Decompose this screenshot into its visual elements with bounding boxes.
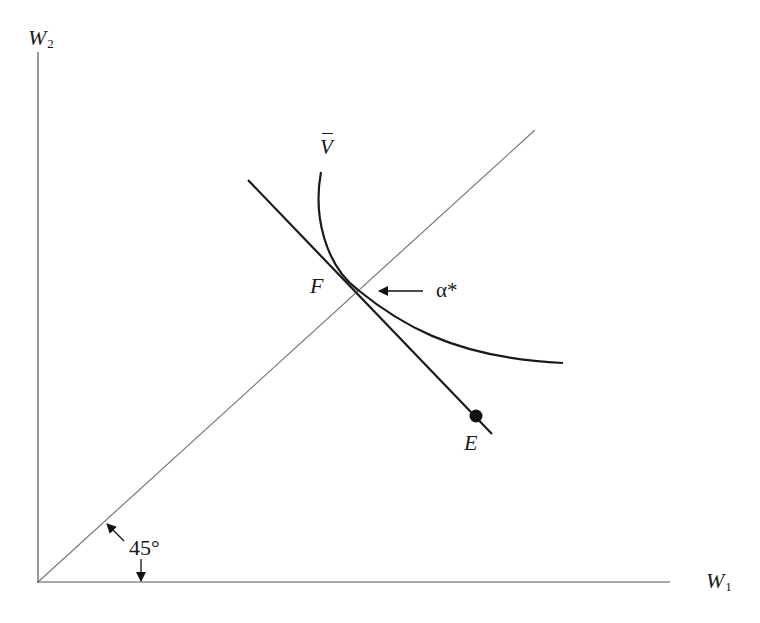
tangent-point-label: F <box>310 275 323 297</box>
indifference-curve <box>319 172 563 363</box>
budget-line <box>248 180 492 434</box>
x-axis-label: W1 <box>706 570 732 592</box>
y-axis-label-base: W <box>28 25 46 50</box>
endowment-point <box>470 410 483 423</box>
angle-arrow-upper <box>107 524 124 541</box>
endowment-label: E <box>464 432 477 454</box>
slope-label: α* <box>436 280 458 301</box>
angle-label: 45° <box>129 537 160 559</box>
x-axis-label-base: W <box>706 568 724 593</box>
curve-label: V <box>320 137 333 158</box>
y-axis-label: W2 <box>28 27 54 49</box>
y-axis-label-sub: 2 <box>47 36 54 51</box>
diagram-canvas <box>0 0 760 623</box>
certainty-line <box>38 130 535 582</box>
x-axis-label-sub: 1 <box>725 579 732 594</box>
curve-label-text: V <box>320 137 333 158</box>
